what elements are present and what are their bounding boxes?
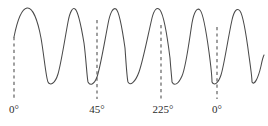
phase-label-0-end: 0°	[212, 104, 222, 115]
phase-label-45: 45°	[89, 104, 104, 115]
sine-wave-path	[14, 8, 264, 84]
phase-label-0-start: 0°	[9, 104, 19, 115]
waveform-figure: 0° 45° 225° 0°	[0, 0, 268, 126]
phase-label-225: 225°	[153, 104, 174, 115]
waveform-canvas	[0, 0, 268, 126]
